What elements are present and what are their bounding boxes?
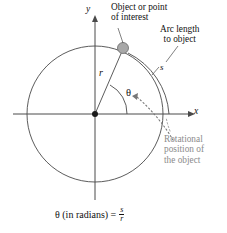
radius-label: r bbox=[99, 67, 103, 78]
x-axis-label: x bbox=[194, 106, 198, 117]
arc-length-leader-line bbox=[166, 46, 178, 62]
object-dot bbox=[118, 43, 129, 54]
formula-fraction: s r bbox=[119, 206, 124, 223]
object-label: Object or point of interest bbox=[111, 2, 167, 23]
object-leader-line bbox=[118, 28, 123, 43]
arc-label-tick bbox=[152, 67, 159, 75]
theta-arc bbox=[110, 85, 127, 114]
formula-denominator: r bbox=[119, 214, 124, 223]
theta-label: θ bbox=[126, 87, 131, 99]
y-axis-label: y bbox=[86, 4, 90, 15]
arc-length-label: Arc length to object bbox=[160, 24, 200, 45]
formula-numerator: s bbox=[119, 206, 124, 214]
formula-lhs: θ (in radians) = bbox=[55, 209, 116, 220]
rotational-position-label: Rotational position of the object bbox=[164, 134, 204, 165]
formula: θ (in radians) = s r bbox=[55, 206, 124, 223]
arc-symbol-label: s bbox=[160, 62, 164, 72]
origin-dot bbox=[92, 111, 98, 117]
rotational-dotted-leader bbox=[166, 117, 170, 131]
y-axis-arrowhead bbox=[92, 15, 98, 22]
arc-length-diagram: Object or point of interest Arc length t… bbox=[0, 0, 227, 233]
rotation-arrowhead bbox=[132, 93, 138, 100]
radius-line bbox=[95, 49, 123, 114]
